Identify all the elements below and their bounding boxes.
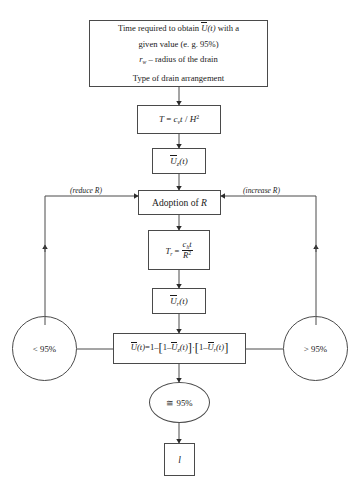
result-label: l [178, 454, 181, 465]
approx-label: ≅ 95% [166, 398, 192, 408]
combined-formula: U(t)=1–[1–Uz(t)]·[1–Ur(t)] [131, 341, 229, 356]
flowchart-canvas: Time required to obtain U(t) with a give… [0, 0, 362, 494]
node-adoption-of-r: Adoption of R [138, 190, 221, 215]
node-approx-95: ≅ 95% [149, 382, 210, 423]
ur-formula: Ur(t) [170, 296, 187, 307]
edge-label-increase-r: (increase R) [243, 186, 280, 195]
node-less-than-95: < 95% [12, 316, 77, 381]
node-uz-degree: Uz(t) [152, 148, 206, 174]
node-tr-time-factor-radial: Tr = cht R2 [148, 230, 210, 270]
start-line-1: Time required to obtain U(t) with a [114, 21, 243, 37]
greater-than-label: > 95% [304, 344, 327, 354]
time-factor-formula: T = cvt / H2 [159, 114, 199, 125]
start-line-2: given value (e. g. 95%) [134, 37, 222, 53]
tr-formula: Tr = cht R2 [165, 240, 192, 261]
edge-label-reduce-r: (reduce R) [70, 186, 102, 195]
node-combined-degree-equation: U(t)=1–[1–Uz(t)]·[1–Ur(t)] [113, 333, 246, 364]
start-line-4: Type of drain arrangement [129, 71, 228, 87]
u-bar-symbol: U [201, 23, 207, 35]
node-greater-than-95: > 95% [283, 316, 348, 381]
node-start-requirements: Time required to obtain U(t) with a give… [89, 20, 268, 87]
less-than-label: < 95% [33, 344, 56, 354]
node-ur-degree: Ur(t) [152, 288, 206, 314]
start-line-3: rw – radius of the drain [135, 52, 222, 70]
node-time-factor-equation: T = cvt / H2 [137, 105, 221, 134]
node-result-spacing: l [164, 443, 195, 476]
uz-formula: Uz(t) [170, 156, 187, 167]
adoption-label: Adoption of R [152, 197, 207, 208]
